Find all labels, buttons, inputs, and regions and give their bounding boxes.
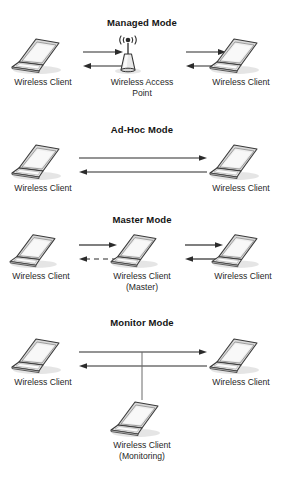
node-adhoc-right: Wireless Client xyxy=(204,140,278,194)
node-sublabel: (Master) xyxy=(105,282,179,293)
node-label: Wireless Client xyxy=(6,77,80,88)
laptop-icon xyxy=(6,34,80,76)
node-managed-right: Wireless Client xyxy=(204,34,278,88)
node-label: Wireless Client xyxy=(204,77,278,88)
laptop-icon xyxy=(6,334,80,376)
laptop-icon xyxy=(204,140,278,182)
section-title-master: Master Mode xyxy=(0,214,284,225)
access-point-icon xyxy=(105,30,179,76)
laptop-icon xyxy=(204,334,278,376)
node-label: Wireless Client (Master) xyxy=(105,271,179,292)
node-sublabel: Point xyxy=(105,88,179,99)
node-monitor-right: Wireless Client xyxy=(204,334,278,388)
node-sublabel: (Monitoring) xyxy=(105,451,179,462)
node-master-center: Wireless Client (Master) xyxy=(105,230,179,292)
section-title-monitor: Monitor Mode xyxy=(0,317,284,328)
node-master-right: Wireless Client xyxy=(206,230,280,282)
node-label: Wireless Client xyxy=(204,377,278,388)
node-monitor-bottom: Wireless Client (Monitoring) xyxy=(105,395,179,461)
wireless-modes-diagram: Managed Mode Wireless Client xyxy=(0,0,284,478)
node-label: Wireless Client xyxy=(206,271,280,282)
node-label: Wireless Client xyxy=(6,183,80,194)
section-managed-mode: Managed Mode Wireless Client xyxy=(0,0,284,110)
node-adhoc-left: Wireless Client xyxy=(6,140,80,194)
node-master-left: Wireless Client xyxy=(4,230,78,282)
section-title-adhoc: Ad-Hoc Mode xyxy=(0,124,284,135)
node-label: Wireless Client (Monitoring) xyxy=(105,440,179,461)
node-monitor-left: Wireless Client xyxy=(6,334,80,388)
node-managed-center: Wireless Access Point xyxy=(105,30,179,98)
section-master-mode: Master Mode Wireless Client xyxy=(0,210,284,310)
node-label: Wireless Client xyxy=(4,271,78,282)
laptop-icon xyxy=(4,230,78,270)
laptop-icon xyxy=(105,395,179,439)
node-managed-left: Wireless Client xyxy=(6,34,80,88)
links-adhoc xyxy=(78,154,208,180)
laptop-icon xyxy=(105,230,179,270)
laptop-icon xyxy=(206,230,280,270)
node-label: Wireless Client xyxy=(204,183,278,194)
section-title-managed: Managed Mode xyxy=(0,17,284,28)
section-adhoc-mode: Ad-Hoc Mode Wireless Client xyxy=(0,110,284,210)
section-monitor-mode: Monitor Mode Wireless Client xyxy=(0,310,284,478)
laptop-icon xyxy=(6,140,80,182)
node-label: Wireless Access Point xyxy=(105,77,179,98)
node-label: Wireless Client xyxy=(6,377,80,388)
laptop-icon xyxy=(204,34,278,76)
